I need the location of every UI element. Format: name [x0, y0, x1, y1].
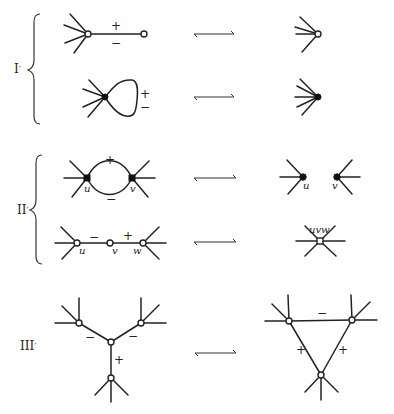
vertex-center: [108, 339, 114, 345]
vertex: [141, 31, 147, 37]
row-III: III′ − − +: [20, 295, 377, 402]
vertex-uvw: [317, 238, 323, 244]
vertex-label-u: u: [84, 183, 90, 194]
sign-plus: +: [105, 153, 115, 167]
vertex: [85, 31, 91, 37]
sign-minus: −: [111, 36, 121, 50]
brace-I: [28, 14, 40, 124]
brace-II: [30, 155, 42, 264]
double-arrow-icon: [194, 239, 236, 245]
sign-plus: +: [111, 19, 121, 33]
move-II-a-right: u v: [280, 160, 360, 194]
double-arrow-icon: [194, 175, 236, 181]
double-arrow-icon: [195, 350, 236, 356]
vertex-label-v: v: [130, 183, 136, 194]
vertex: [349, 317, 355, 323]
vertex: [315, 94, 321, 100]
row-II: II′ + − u v: [17, 153, 360, 264]
double-arrow-icon: [194, 94, 234, 100]
move-III-left: − − +: [55, 298, 166, 402]
vertex: [108, 375, 114, 381]
move-II-b-left: − + u v w: [55, 227, 166, 259]
row-label-I: I′: [14, 62, 21, 76]
move-II-a-left: + − u v: [64, 153, 155, 206]
vertex-label-uvw: uvw: [309, 224, 330, 235]
move-I-a-right: [295, 17, 321, 52]
vertex-label-v: v: [112, 245, 118, 256]
move-I-a-left: + −: [64, 14, 147, 53]
move-I-b-left: + −: [83, 80, 150, 117]
vertex-label-v: v: [332, 180, 338, 191]
sign-plus: +: [338, 343, 348, 357]
vertex-v: [129, 175, 135, 181]
vertex: [318, 372, 324, 378]
vertex-u: [84, 175, 90, 181]
sign-minus: −: [89, 230, 99, 244]
row-I: I′ + −: [14, 14, 321, 124]
vertex-label-w: w: [133, 245, 142, 256]
vertex: [286, 318, 292, 324]
sign-minus: −: [140, 100, 150, 114]
sign-minus: −: [85, 330, 95, 344]
sign-minus: −: [317, 306, 327, 320]
row-label-III: III′: [20, 339, 36, 353]
sign-plus: +: [123, 229, 133, 243]
vertex-label-u: u: [79, 245, 85, 256]
vertex: [315, 31, 321, 37]
move-III-right: − + +: [265, 295, 377, 400]
sign-plus: +: [296, 343, 306, 357]
graph-moves-diagram: I′ + −: [0, 0, 394, 414]
sign-minus: −: [106, 192, 116, 206]
vertex: [138, 320, 144, 326]
double-arrow-icon: [194, 31, 234, 37]
sign-plus: +: [114, 353, 124, 367]
sign-plus: +: [140, 87, 150, 101]
move-I-b-right: [295, 79, 321, 115]
row-label-II: II′: [17, 203, 29, 217]
vertex: [76, 320, 82, 326]
sign-minus: −: [128, 329, 138, 343]
vertex-label-u: u: [303, 180, 309, 191]
vertex: [102, 94, 108, 100]
move-II-b-right: uvw: [296, 224, 345, 256]
